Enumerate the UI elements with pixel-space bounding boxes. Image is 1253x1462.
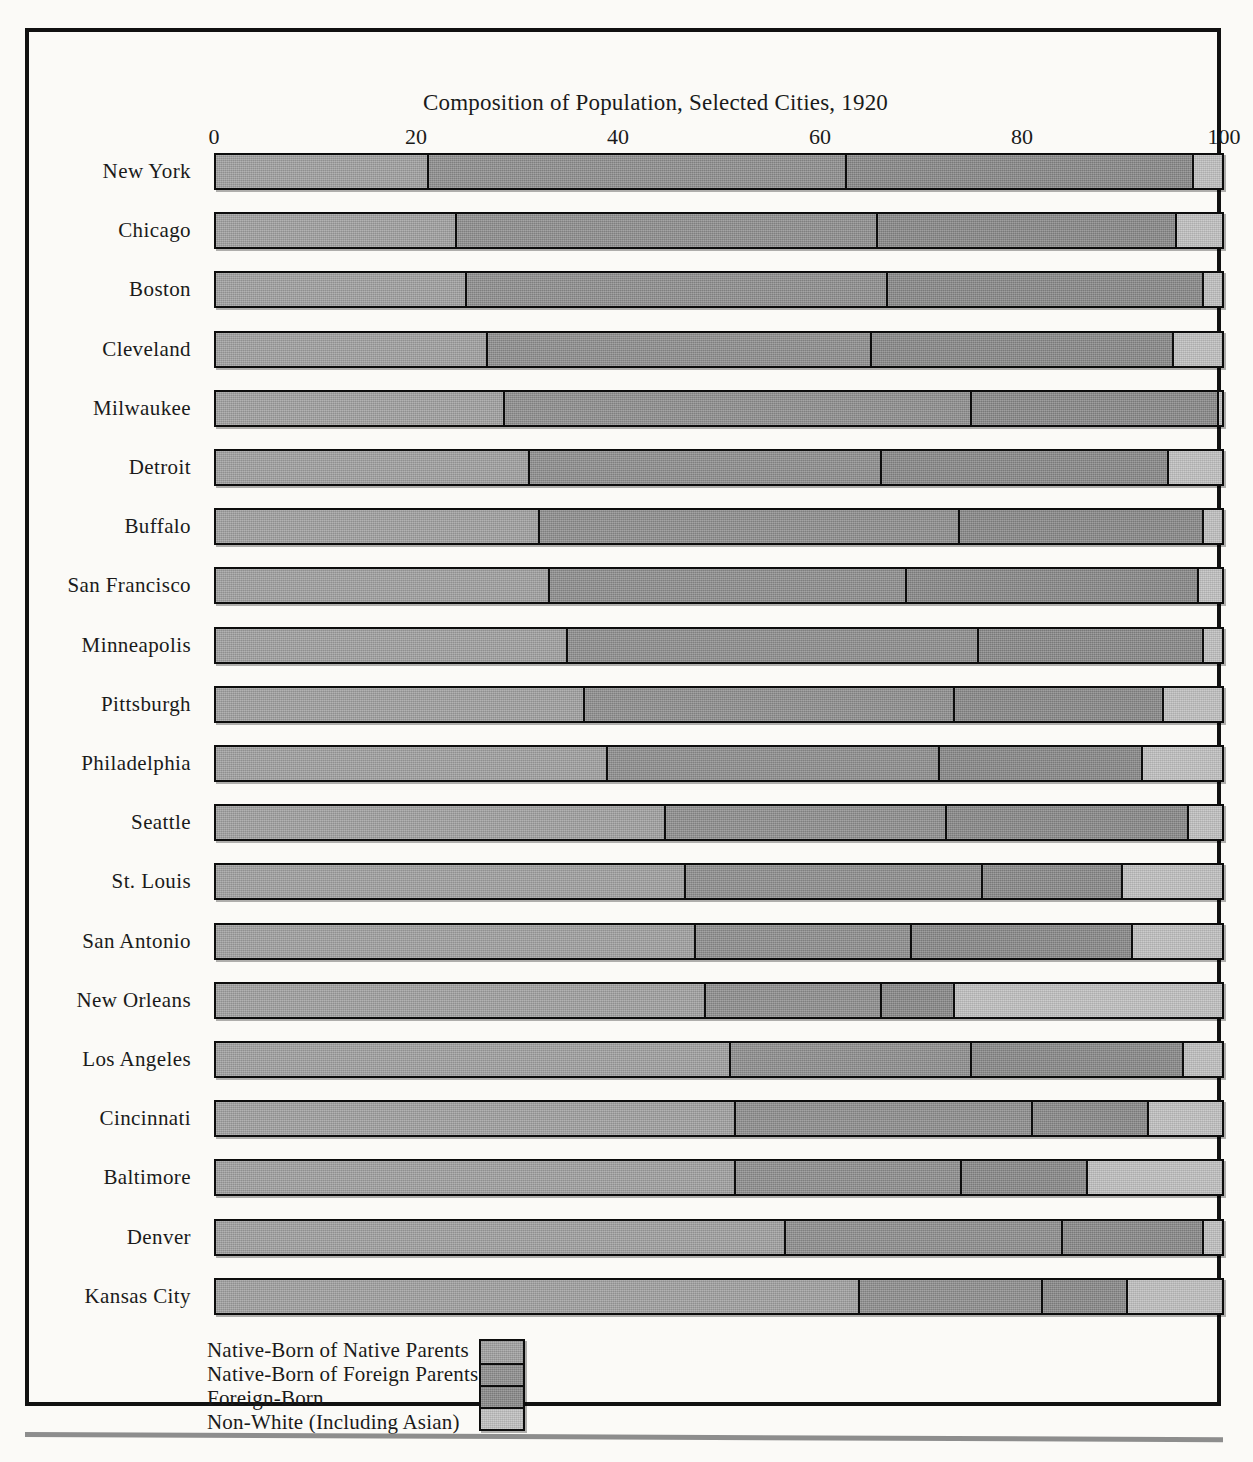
bar-segment[interactable] [216,984,704,1017]
bar-segment[interactable] [734,1161,960,1194]
bar-segment[interactable] [880,451,1167,484]
bar-segment[interactable] [1217,392,1222,425]
bar-row[interactable] [214,567,1224,604]
bar-segment[interactable] [1172,333,1222,366]
bar-segment[interactable] [1167,451,1222,484]
stacked-bar[interactable] [214,153,1224,190]
bar-row[interactable] [214,804,1224,841]
bar-segment[interactable] [216,1043,729,1076]
bar-segment[interactable] [876,214,1175,247]
stacked-bar[interactable] [214,1278,1224,1315]
bar-row[interactable] [214,686,1224,723]
bar-row[interactable] [214,923,1224,960]
bar-segment[interactable] [216,214,455,247]
stacked-bar[interactable] [214,982,1224,1019]
bar-row[interactable] [214,1278,1224,1315]
bar-segment[interactable] [465,273,886,306]
stacked-bar[interactable] [214,567,1224,604]
bar-row[interactable] [214,331,1224,368]
stacked-bar[interactable] [214,1159,1224,1196]
bar-segment[interactable] [958,510,1201,543]
bar-segment[interactable] [970,1043,1181,1076]
bar-segment[interactable] [729,1043,970,1076]
bar-segment[interactable] [216,806,664,839]
bar-segment[interactable] [216,1221,784,1254]
bar-row[interactable] [214,153,1224,190]
bar-row[interactable] [214,982,1224,1019]
bar-row[interactable] [214,627,1224,664]
bar-segment[interactable] [216,155,427,188]
bar-segment[interactable] [1126,1280,1222,1313]
bar-segment[interactable] [1202,1221,1222,1254]
bar-segment[interactable] [953,984,1222,1017]
bar-segment[interactable] [1131,925,1222,958]
bar-segment[interactable] [216,1280,858,1313]
stacked-bar[interactable] [214,863,1224,900]
bar-segment[interactable] [938,747,1141,780]
bar-segment[interactable] [1061,1221,1202,1254]
stacked-bar[interactable] [214,449,1224,486]
bar-segment[interactable] [538,510,959,543]
bar-row[interactable] [214,863,1224,900]
bar-segment[interactable] [1041,1280,1127,1313]
stacked-bar[interactable] [214,212,1224,249]
bar-segment[interactable] [1147,1102,1222,1135]
stacked-bar[interactable] [214,686,1224,723]
bar-segment[interactable] [704,984,880,1017]
bar-segment[interactable] [684,865,981,898]
stacked-bar[interactable] [214,627,1224,664]
stacked-bar[interactable] [214,508,1224,545]
stacked-bar[interactable] [214,923,1224,960]
bar-segment[interactable] [945,806,1186,839]
bar-segment[interactable] [845,155,1192,188]
bar-row[interactable] [214,449,1224,486]
bar-segment[interactable] [503,392,971,425]
bar-row[interactable] [214,1041,1224,1078]
bar-segment[interactable] [583,688,953,721]
bar-segment[interactable] [905,569,1197,602]
bar-row[interactable] [214,271,1224,308]
stacked-bar[interactable] [214,745,1224,782]
stacked-bar[interactable] [214,390,1224,427]
bar-segment[interactable] [216,925,694,958]
bar-segment[interactable] [694,925,910,958]
bar-segment[interactable] [1162,688,1222,721]
bar-row[interactable] [214,390,1224,427]
bar-segment[interactable] [1175,214,1222,247]
bar-row[interactable] [214,1159,1224,1196]
bar-segment[interactable] [880,984,953,1017]
bar-segment[interactable] [427,155,844,188]
bar-segment[interactable] [1182,1043,1222,1076]
bar-segment[interactable] [910,925,1131,958]
bar-segment[interactable] [216,392,503,425]
bar-segment[interactable] [216,1102,734,1135]
bar-row[interactable] [214,508,1224,545]
bar-segment[interactable] [664,806,946,839]
bar-segment[interactable] [1202,629,1222,662]
bar-segment[interactable] [216,451,528,484]
bar-segment[interactable] [858,1280,1041,1313]
bar-segment[interactable] [216,747,606,780]
bar-segment[interactable] [1141,747,1221,780]
bar-segment[interactable] [606,747,938,780]
bar-segment[interactable] [486,333,870,366]
stacked-bar[interactable] [214,1100,1224,1137]
bar-row[interactable] [214,212,1224,249]
stacked-bar[interactable] [214,1219,1224,1256]
bar-segment[interactable] [734,1102,1031,1135]
bar-segment[interactable] [1202,273,1222,306]
bar-segment[interactable] [1121,865,1222,898]
bar-segment[interactable] [981,865,1122,898]
bar-segment[interactable] [870,333,1172,366]
bar-segment[interactable] [1086,1161,1222,1194]
bar-row[interactable] [214,1219,1224,1256]
stacked-bar[interactable] [214,271,1224,308]
bar-segment[interactable] [977,629,1202,662]
bar-segment[interactable] [1187,806,1222,839]
bar-row[interactable] [214,1100,1224,1137]
bar-segment[interactable] [548,569,905,602]
bar-segment[interactable] [566,629,976,662]
bar-segment[interactable] [216,333,486,366]
bar-segment[interactable] [216,510,538,543]
bar-segment[interactable] [1202,510,1222,543]
